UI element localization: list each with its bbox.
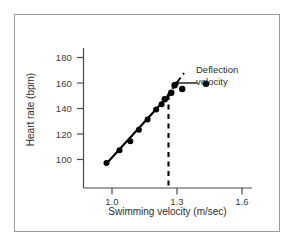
y-tick-label-160: 160 (48, 78, 72, 89)
x-axis-title: Swimming velocity (m/sec) (60, 206, 275, 217)
y-tick-label-140: 140 (48, 103, 72, 114)
data-point (168, 90, 174, 96)
data-point (136, 127, 142, 133)
data-point (145, 117, 151, 123)
data-point (104, 160, 110, 166)
y-tick-label-100: 100 (48, 154, 72, 165)
annotation-line-1: Deflection (196, 64, 238, 76)
data-point (127, 138, 133, 144)
data-point (171, 82, 177, 88)
data-point (162, 96, 168, 102)
figure-container: 180 160 140 120 100 1.0 1.3 1.6 Heart ra… (0, 0, 294, 247)
data-point (153, 106, 159, 112)
deflection-velocity-annotation: Deflection velocity (196, 64, 238, 87)
annotation-line-2: velocity (196, 76, 238, 88)
data-point (117, 147, 123, 153)
data-point (179, 86, 185, 92)
y-tick-label-180: 180 (48, 52, 72, 63)
y-tick-label-120: 120 (48, 129, 72, 140)
y-axis-title: Heart rate (bpm) (25, 55, 36, 165)
